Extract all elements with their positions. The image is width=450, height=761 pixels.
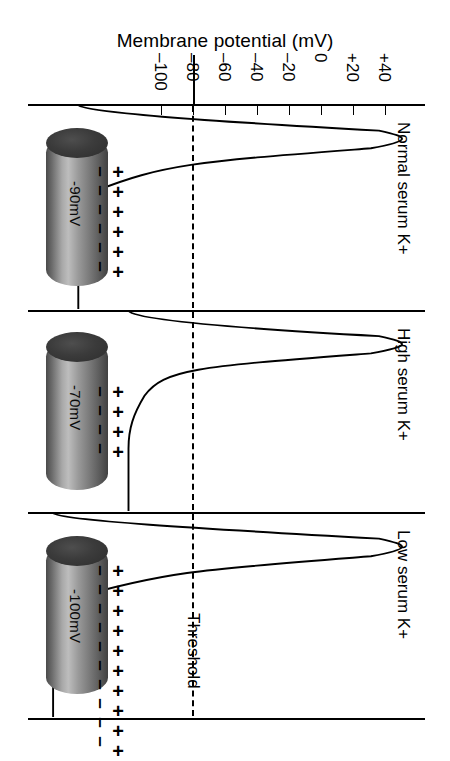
charge-minus: – xyxy=(92,565,111,576)
charge-minus: – xyxy=(92,641,111,652)
charge-plus: + xyxy=(112,741,124,761)
charge-plus: + xyxy=(112,661,124,681)
extracellular-positive-charges-low: ++++++++++ xyxy=(111,561,125,685)
charge-minus: – xyxy=(92,698,111,709)
threshold-label: Threshold xyxy=(183,613,203,689)
charge-minus: – xyxy=(92,584,111,595)
charge-plus: + xyxy=(112,721,124,741)
resting-potential-label-low: -100mV xyxy=(67,589,84,643)
charge-minus: – xyxy=(92,603,111,614)
charge-minus: – xyxy=(92,736,111,747)
charge-plus: + xyxy=(112,701,124,721)
charge-minus: – xyxy=(92,660,111,671)
intracellular-negative-charges-low: –––––––––– xyxy=(96,561,106,685)
charge-minus: – xyxy=(92,679,111,690)
charge-plus: + xyxy=(112,561,124,581)
charge-plus: + xyxy=(112,641,124,661)
charge-minus: – xyxy=(92,622,111,633)
charge-plus: + xyxy=(112,581,124,601)
charge-minus: – xyxy=(92,717,111,728)
charge-plus: + xyxy=(112,621,124,641)
charge-plus: + xyxy=(112,601,124,621)
charge-plus: + xyxy=(112,681,124,701)
figure-canvas: Membrane potential (mV) –100–80–60–40–20… xyxy=(0,0,450,761)
